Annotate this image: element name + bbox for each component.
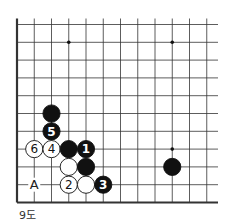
black-stone-icon bbox=[164, 158, 181, 175]
white-stone-icon bbox=[60, 158, 77, 175]
marker-label: A bbox=[30, 177, 39, 192]
star-point-icon bbox=[170, 41, 174, 45]
stone-move-number: 5 bbox=[47, 125, 55, 139]
go-board-diagram: A564123 bbox=[0, 0, 231, 224]
star-point-icon bbox=[67, 41, 71, 45]
black-stone-icon bbox=[43, 105, 60, 122]
stone-move-number: 4 bbox=[48, 142, 56, 156]
stone-move-number: 3 bbox=[99, 178, 107, 192]
black-stone-icon bbox=[77, 158, 94, 175]
star-point-icon bbox=[170, 147, 174, 151]
stone-move-number: 1 bbox=[82, 142, 90, 156]
white-stone-icon bbox=[77, 176, 94, 193]
stone-move-number: 6 bbox=[30, 142, 38, 156]
stone-move-number: 2 bbox=[65, 178, 73, 192]
black-stone-icon bbox=[60, 141, 77, 158]
diagram-caption: 9도 bbox=[19, 206, 36, 222]
